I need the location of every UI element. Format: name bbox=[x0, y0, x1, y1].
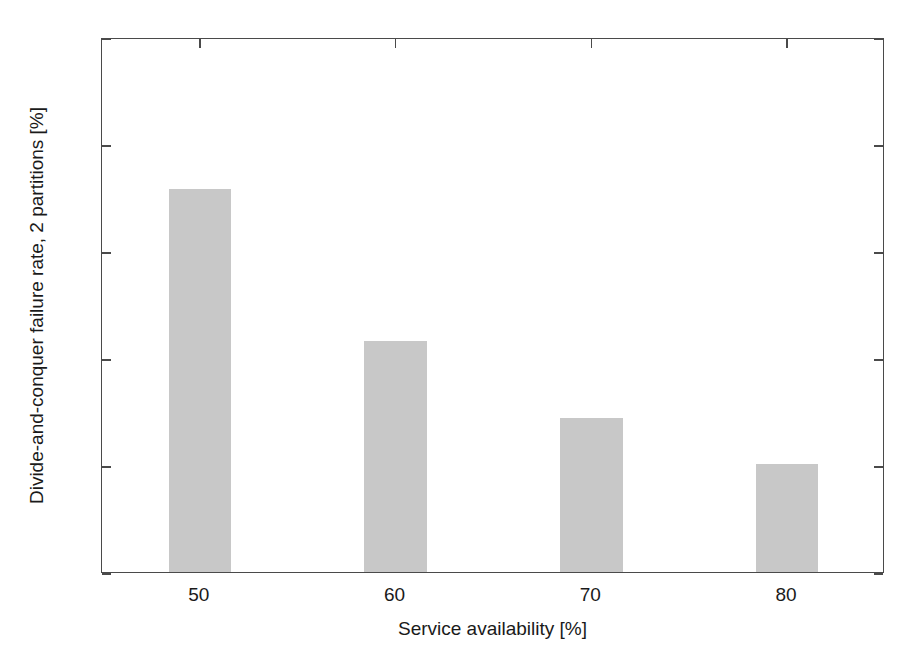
bar-chart-figure: Divide-and-conquer failure rate, 2 parti… bbox=[0, 0, 910, 658]
x-axis-tick-label: 80 bbox=[746, 584, 826, 606]
y-axis-tick bbox=[102, 38, 111, 40]
y-axis-tick bbox=[874, 573, 883, 575]
y-axis-tick bbox=[874, 466, 883, 468]
y-axis-tick bbox=[102, 252, 111, 254]
x-axis-title: Service availability [%] bbox=[101, 618, 884, 640]
bar bbox=[756, 464, 819, 572]
y-axis-title: Divide-and-conquer failure rate, 2 parti… bbox=[26, 38, 52, 573]
bar bbox=[169, 189, 232, 572]
x-axis-tick bbox=[199, 39, 201, 48]
y-axis-tick bbox=[874, 145, 883, 147]
x-axis-tick-label: 50 bbox=[159, 584, 239, 606]
x-axis-tick bbox=[591, 39, 593, 48]
y-axis-tick bbox=[102, 145, 111, 147]
y-axis-tick bbox=[102, 359, 111, 361]
y-axis-tick bbox=[102, 573, 111, 575]
y-axis-tick bbox=[874, 359, 883, 361]
x-axis-tick bbox=[395, 39, 397, 48]
plot-area bbox=[101, 38, 884, 573]
plot-inner bbox=[102, 39, 883, 572]
y-axis-tick bbox=[874, 38, 883, 40]
clipped-header-text bbox=[0, 0, 910, 2]
bar bbox=[560, 418, 623, 572]
x-axis-tick-label: 70 bbox=[550, 584, 630, 606]
bar bbox=[364, 341, 427, 572]
y-axis-tick bbox=[102, 466, 111, 468]
y-axis-tick bbox=[874, 252, 883, 254]
x-axis-tick bbox=[786, 39, 788, 48]
x-axis-tick-label: 60 bbox=[355, 584, 435, 606]
